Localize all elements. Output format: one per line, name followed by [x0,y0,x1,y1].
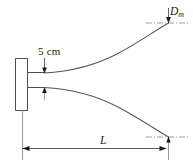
overall-length-dimension [23,146,167,151]
length-dim-arrowhead-right [160,146,167,151]
throat-height-dimension [42,58,47,74]
throat-lower-dimension [42,87,47,100]
throat-diameter-label: 5 cm [38,46,61,57]
flange-block-group [16,59,45,111]
figure-canvas [0,0,193,163]
nozzle-contour-figure: 5 cm L Dm [0,0,193,163]
exit-diameter-subscript: m [178,10,184,19]
right-extension-line-group [166,137,170,161]
length-label: L [100,135,106,147]
lower-wall-path [44,88,169,138]
length-dim-arrowhead-left [23,146,30,151]
exit-diameter-label: Dm [170,6,184,19]
lower-contour-curve [44,88,169,138]
flange-outer-rect [16,59,28,111]
upper-contour-curve [44,23,169,73]
upper-wall-path [44,23,169,73]
